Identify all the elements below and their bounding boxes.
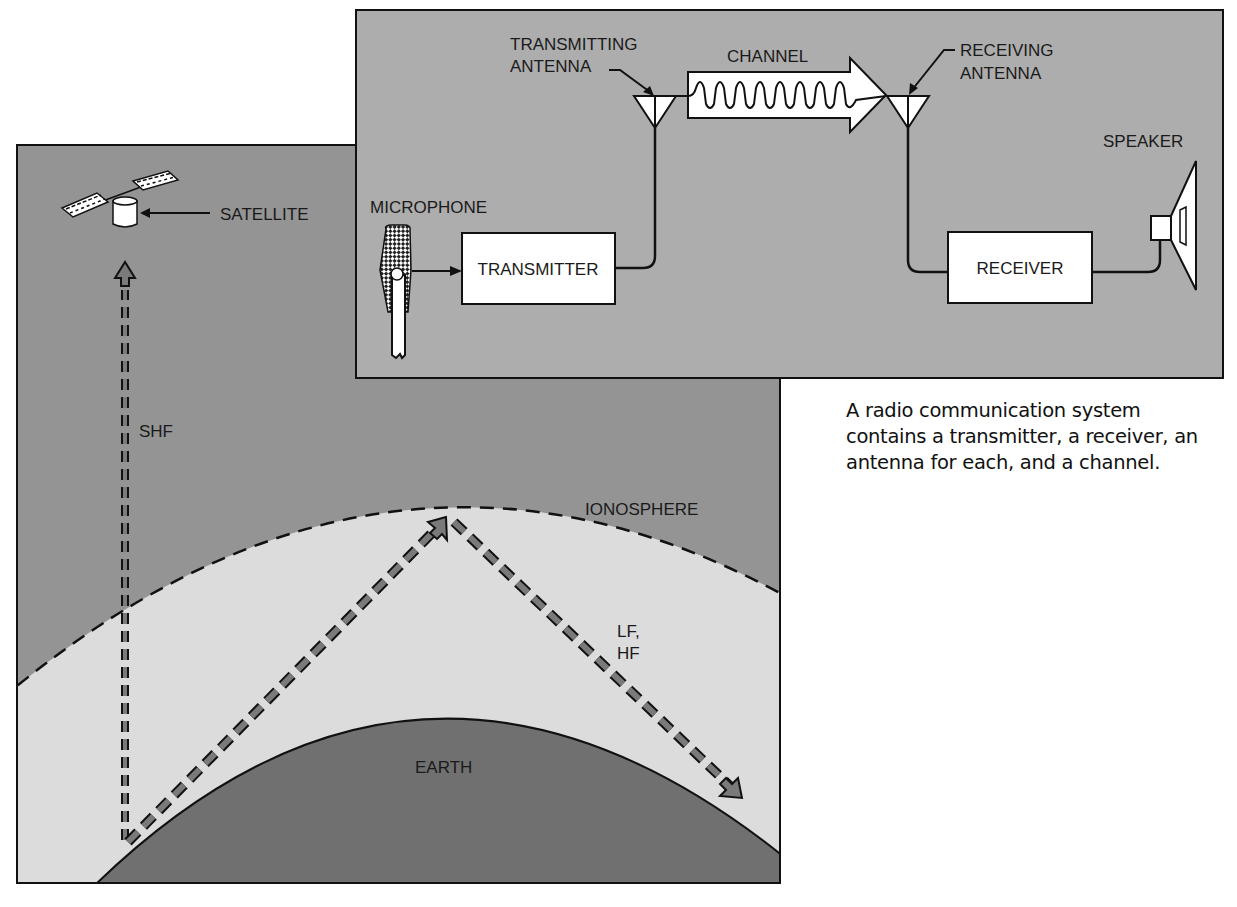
transmitter-label: TRANSMITTER bbox=[478, 260, 599, 279]
receiving-antenna-label-1: RECEIVING bbox=[960, 41, 1054, 60]
earth-label: EARTH bbox=[415, 758, 472, 777]
speaker-label: SPEAKER bbox=[1103, 132, 1183, 151]
figure-caption: A radio communication system contains a … bbox=[846, 398, 1226, 476]
transmitting-antenna-label-2: ANTENNA bbox=[510, 57, 592, 76]
channel-label: CHANNEL bbox=[727, 47, 808, 66]
ionosphere-label: IONOSPHERE bbox=[585, 500, 698, 519]
shf-label: SHF bbox=[139, 422, 173, 441]
transmitting-antenna-label-1: TRANSMITTING bbox=[510, 35, 638, 54]
satellite-label: SATELLITE bbox=[220, 205, 309, 224]
microphone-label: MICROPHONE bbox=[370, 198, 487, 217]
receiving-antenna-label-2: ANTENNA bbox=[960, 64, 1042, 83]
hf-label: HF bbox=[617, 644, 640, 663]
system-panel: TRANSMITTING ANTENNA CHANNEL RECEIVING A… bbox=[356, 10, 1223, 378]
lf-label: LF, bbox=[617, 622, 640, 641]
receiver-label: RECEIVER bbox=[977, 259, 1064, 278]
